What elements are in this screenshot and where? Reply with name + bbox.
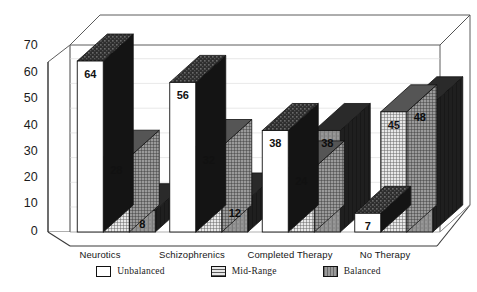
y-tick-30: 30 <box>12 144 38 158</box>
y-tick-0: 0 <box>12 224 38 238</box>
y-tick-50: 50 <box>12 91 38 105</box>
y-tick-70: 70 <box>12 38 38 52</box>
bar-value-label: 56 <box>167 89 199 101</box>
bar-value-label: 64 <box>74 68 106 80</box>
legend-item-mid-range[interactable]: Mid-Range <box>211 266 277 277</box>
bar-value-label: 32 <box>193 154 225 166</box>
bar-schizophrenics-unbalanced <box>170 55 226 232</box>
legend: Unbalanced Mid-Range Balanced <box>0 262 477 280</box>
x-label-completed-therapy: Completed Therapy <box>238 249 342 260</box>
bar-neurotics-unbalanced <box>77 34 133 232</box>
legend-label-balanced: Balanced <box>344 266 381 276</box>
bar-value-label: 8 <box>126 218 158 230</box>
bar-value-label: 28 <box>100 164 132 176</box>
legend-swatch-balanced <box>323 266 338 277</box>
bar-value-label: 12 <box>219 207 251 219</box>
legend-item-balanced[interactable]: Balanced <box>323 266 381 277</box>
y-tick-60: 60 <box>12 65 38 79</box>
bar-completed-therapy-unbalanced <box>262 103 318 232</box>
bar-value-label: 7 <box>352 220 384 232</box>
legend-swatch-unbalanced <box>96 266 111 277</box>
bar-value-label: 38 <box>259 137 291 149</box>
legend-label-unbalanced: Unbalanced <box>117 266 164 276</box>
legend-label-mid-range: Mid-Range <box>232 266 277 276</box>
x-label-schizophrenics: Schizophrenics <box>147 249 237 260</box>
y-tick-20: 20 <box>12 170 38 184</box>
bar-value-label: 45 <box>378 119 410 131</box>
legend-item-unbalanced[interactable]: Unbalanced <box>96 266 164 277</box>
x-label-neurotics: Neurotics <box>60 249 140 260</box>
legend-swatch-mid-range <box>211 266 226 277</box>
y-tick-10: 10 <box>12 196 38 210</box>
y-tick-40: 40 <box>12 118 38 132</box>
bar-value-label: 24 <box>285 175 317 187</box>
x-label-no-therapy: No Therapy <box>343 249 427 260</box>
bar-chart: 70 60 50 40 30 20 10 0 Neurotics Schizop… <box>0 0 477 292</box>
bar-value-label: 38 <box>311 137 343 149</box>
